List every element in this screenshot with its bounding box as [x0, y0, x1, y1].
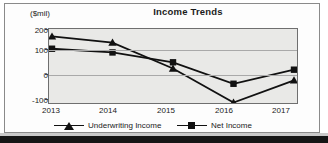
- legend-label-net-income: Net Income: [211, 121, 252, 130]
- y-axis-unit-label: ($mil): [30, 9, 50, 18]
- chart-legend: Underwriting Income Net Income: [48, 119, 298, 131]
- plot-area: [48, 28, 298, 104]
- gridline-0: [49, 75, 297, 76]
- legend-entry-net-income[interactable]: Net Income: [177, 119, 252, 131]
- x-tick-label-2016: 2016: [204, 106, 244, 115]
- x-tick-label-2013: 2013: [31, 106, 71, 115]
- data-point-underwriting-income-2017: [290, 76, 297, 83]
- x-tick-label-2015: 2015: [146, 106, 186, 115]
- gridline-100: [49, 50, 297, 51]
- chart-screenshot: Income Trends ($mil) 200 100 0 -100 2013…: [0, 0, 328, 143]
- data-point-net-income-2016: [230, 81, 236, 87]
- x-tick-label-2017: 2017: [261, 106, 301, 115]
- y-tick-label-neg100: -100: [22, 96, 48, 105]
- chart-title: Income Trends: [118, 6, 258, 17]
- triangle-marker-icon: [54, 120, 84, 130]
- y-tick-label-100: 100: [22, 46, 48, 55]
- legend-label-underwriting-income: Underwriting Income: [88, 121, 161, 130]
- x-tick-label-2014: 2014: [88, 106, 128, 115]
- y-tick-label-200: 200: [22, 26, 48, 35]
- data-point-net-income-2017: [291, 67, 297, 73]
- series-plot: [49, 29, 297, 103]
- scan-edge-band: [0, 136, 328, 143]
- square-marker-icon: [177, 120, 207, 130]
- legend-entry-underwriting-income[interactable]: Underwriting Income: [54, 119, 161, 131]
- data-point-net-income-2015: [170, 59, 176, 65]
- y-tick-label-0: 0: [22, 71, 48, 80]
